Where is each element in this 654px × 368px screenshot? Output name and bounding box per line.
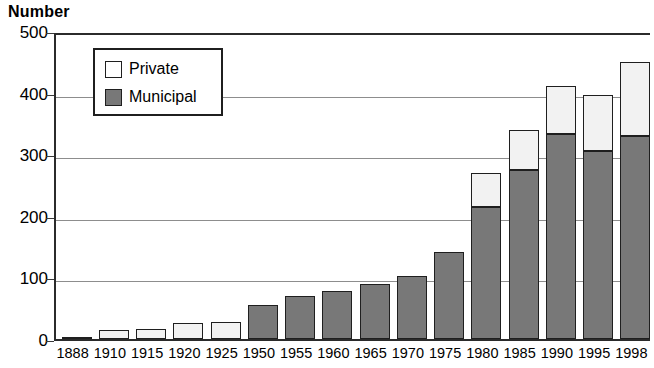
x-tick-label-1970: 1970: [389, 344, 426, 362]
bar-segment-private-1990: [546, 86, 576, 133]
bar-1915: [136, 329, 166, 339]
x-tick-label-1975: 1975: [427, 344, 464, 362]
y-tick-mark: [46, 33, 54, 34]
legend-swatch-municipal-icon: [105, 89, 122, 106]
bar-segment-private-1980: [471, 173, 501, 207]
x-tick-label-1910: 1910: [91, 344, 128, 362]
x-tick-label-1985: 1985: [501, 344, 538, 362]
bar-1888: [62, 337, 92, 339]
bar-segment-private-1925: [211, 322, 241, 339]
chart-legend: Private Municipal: [93, 48, 223, 116]
x-tick-label-1960: 1960: [315, 344, 352, 362]
bar-1985: [509, 130, 539, 339]
bar-segment-municipal-1950: [248, 305, 278, 339]
bar-1970: [397, 276, 427, 339]
y-tick-label: 200: [4, 209, 48, 226]
bar-1910: [99, 330, 129, 339]
chart-axis-title: Number: [8, 2, 70, 22]
bar-segment-private-1920: [173, 323, 203, 339]
y-tick-mark: [46, 156, 54, 157]
bar-1920: [173, 323, 203, 339]
bar-segment-private-1915: [136, 329, 166, 339]
bar-segment-private-1998: [620, 62, 650, 136]
legend-item-private: Private: [105, 55, 221, 83]
y-tick-mark: [46, 341, 54, 342]
x-tick-label-1925: 1925: [203, 344, 240, 362]
legend-label-municipal: Municipal: [129, 88, 197, 106]
bar-segment-municipal-1955: [285, 296, 315, 339]
y-tick-mark: [46, 218, 54, 219]
bar-1995: [583, 95, 613, 339]
legend-item-municipal: Municipal: [105, 83, 221, 111]
y-tick-label: 400: [4, 86, 48, 103]
bar-1975: [434, 252, 464, 339]
bar-1950: [248, 305, 278, 339]
x-tick-label-1965: 1965: [352, 344, 389, 362]
x-axis: 1888191019151920192519501955196019651970…: [54, 344, 650, 368]
legend-label-private: Private: [129, 60, 179, 78]
x-tick-label-1915: 1915: [129, 344, 166, 362]
bar-1955: [285, 296, 315, 339]
y-axis: 0100200300400500: [0, 33, 48, 341]
bar-1925: [211, 322, 241, 339]
x-tick-label-1980: 1980: [464, 344, 501, 362]
bar-segment-private-1910: [99, 330, 129, 339]
bar-segment-municipal-1975: [434, 252, 464, 339]
x-tick-label-1990: 1990: [538, 344, 575, 362]
bar-1960: [322, 291, 352, 339]
y-tick-label: 500: [4, 24, 48, 41]
bar-segment-municipal-1990: [546, 134, 576, 339]
bar-segment-private-1995: [583, 95, 613, 150]
bar-segment-municipal-1970: [397, 276, 427, 339]
bar-1990: [546, 86, 576, 339]
bar-segment-municipal-1998: [620, 136, 650, 339]
y-tick-mark: [46, 279, 54, 280]
y-tick-mark: [46, 95, 54, 96]
x-tick-label-1995: 1995: [576, 344, 613, 362]
y-tick-label: 300: [4, 147, 48, 164]
x-tick-label-1920: 1920: [166, 344, 203, 362]
y-tick-label: 100: [4, 270, 48, 287]
y-tick-label: 0: [4, 332, 48, 349]
bar-1980: [471, 173, 501, 339]
bar-segment-private-1985: [509, 130, 539, 171]
x-tick-label-1888: 1888: [54, 344, 91, 362]
x-tick-label-1950: 1950: [240, 344, 277, 362]
bar-1965: [360, 284, 390, 339]
x-tick-label-1955: 1955: [278, 344, 315, 362]
bar-1998: [620, 62, 650, 339]
bar-segment-municipal-1980: [471, 207, 501, 339]
x-tick-label-1998: 1998: [613, 344, 650, 362]
bar-segment-municipal-1960: [322, 291, 352, 339]
bar-segment-municipal-1995: [583, 151, 613, 339]
bar-segment-municipal-1985: [509, 170, 539, 339]
legend-swatch-private-icon: [105, 61, 122, 78]
bar-chart: Number 0100200300400500 1888191019151920…: [0, 0, 654, 368]
bar-segment-municipal-1965: [360, 284, 390, 339]
